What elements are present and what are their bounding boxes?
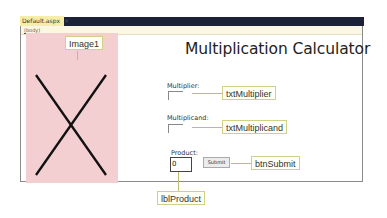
callout-image1: Image1 <box>65 36 103 50</box>
multiplicand-callout-connector <box>192 127 222 128</box>
product-callout-connector <box>178 172 179 191</box>
multiplier-input[interactable] <box>168 91 183 100</box>
broken-image-x-icon <box>26 33 118 183</box>
product-label: Product: <box>171 149 198 157</box>
multiplicand-label: Multiplicand: <box>167 114 209 122</box>
callout-txtmultiplier: txtMultiplier <box>222 86 276 100</box>
product-output: 0 <box>170 157 192 172</box>
close-icon[interactable]: × <box>64 17 69 24</box>
page-title: Multiplication Calculator <box>185 40 370 58</box>
tab-default-aspx[interactable]: Default.aspx× <box>20 16 64 26</box>
multiplicand-input[interactable] <box>168 124 183 133</box>
multiplier-callout-connector <box>192 93 222 94</box>
callout-txtmultiplicand: txtMultiplicand <box>222 120 287 134</box>
submit-callout-connector <box>231 163 251 164</box>
callout-lblproduct: lblProduct <box>157 191 205 205</box>
tab-label: Default.aspx <box>22 17 60 24</box>
document-tab-bar <box>20 17 364 26</box>
image-placeholder[interactable] <box>26 33 118 183</box>
multiplier-label: Multiplier: <box>167 82 199 90</box>
product-value: 0 <box>172 160 176 168</box>
image-callout-connector <box>77 51 78 60</box>
callout-btnsubmit: btnSubmit <box>251 156 300 170</box>
submit-button[interactable]: Submit <box>203 157 230 168</box>
